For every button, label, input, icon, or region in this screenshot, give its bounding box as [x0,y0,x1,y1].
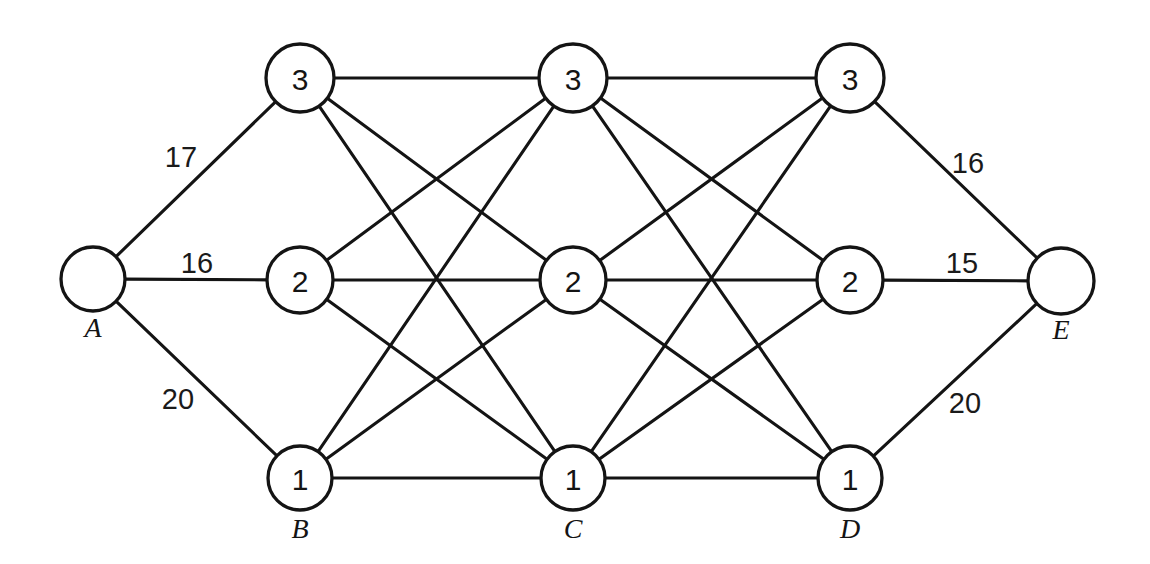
node-C2[interactable]: 2 [540,247,606,313]
graph-svg: A321B321C321DE 171620161520 [0,0,1150,564]
node-B3[interactable]: 3 [266,44,334,112]
node-C1[interactable]: 1 [541,446,605,510]
edge-weight-A-B3: 17 [165,141,197,173]
diagram-canvas: A321B321C321DE 171620161520 [0,0,1150,564]
node-value-B1: 1 [292,463,309,496]
node-value-B3: 3 [292,63,309,96]
node-value-C3: 3 [565,63,582,96]
node-value-D3: 3 [842,63,859,96]
edge-weight-A-B1: 20 [162,383,194,415]
edge-A-B2 [124,279,268,280]
node-B2[interactable]: 2 [267,247,333,313]
node-A[interactable] [61,247,125,311]
edge-weight-D3-E: 16 [952,147,984,179]
node-value-D1: 1 [842,463,859,496]
node-value-B2: 2 [292,265,309,298]
node-circle-E[interactable] [1028,248,1094,314]
node-layer: A321B321C321DE [61,44,1094,544]
node-D2[interactable]: 2 [817,247,883,313]
node-value-C2: 2 [565,265,582,298]
edge-weight-D1-E: 20 [949,387,981,419]
node-name-B1: B [291,513,308,544]
node-B1[interactable]: 1 [268,446,332,510]
edge-weight-A-B2: 16 [181,247,213,279]
edge-D1-E [873,303,1038,457]
edge-A-B1 [115,300,278,456]
node-value-C1: 1 [565,463,582,496]
node-D1[interactable]: 1 [818,446,882,510]
node-value-D2: 2 [842,265,859,298]
node-C3[interactable]: 3 [539,44,607,112]
node-E[interactable] [1028,248,1094,314]
edge-A-B3 [115,101,276,258]
edge-D2-E [882,280,1029,281]
edge-D3-E [874,101,1038,259]
node-D3[interactable]: 3 [816,44,884,112]
node-name-D1: D [839,513,860,544]
edge-weight-D2-E: 15 [946,247,978,279]
node-name-C1: C [564,513,583,544]
node-name-E: E [1051,314,1069,345]
node-circle-A[interactable] [61,247,125,311]
node-name-A: A [82,312,102,343]
